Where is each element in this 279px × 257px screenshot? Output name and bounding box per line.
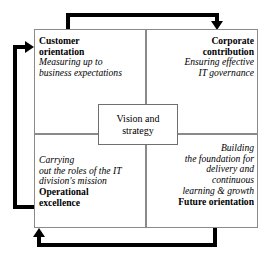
operational-excellence-title-line2: excellence — [39, 198, 143, 209]
bottom-arrow-horizontal-segment — [37, 243, 217, 247]
bottom-arrow-left-stem — [37, 236, 41, 246]
quadrant-operational-excellence: Carrying out the roles of the IT divisio… — [39, 155, 143, 209]
left-arrow-vertical-segment — [13, 45, 17, 209]
left-arrowhead-right-icon — [25, 41, 34, 53]
customer-orientation-subtitle-line2: business expectations — [39, 68, 142, 79]
vision-and-strategy-text: Vision and strategy — [116, 113, 159, 137]
quadrant-corporate-contribution: Corporate contribution Ensuring effectiv… — [150, 36, 254, 79]
left-arrow-bottom-stem — [13, 205, 35, 209]
top-arrow-left-stem — [66, 13, 70, 30]
future-orientation-title-line1: Future orientation — [150, 197, 254, 208]
diagram-canvas: Customer orientation Measuring up to bus… — [0, 0, 279, 257]
bottom-arrowhead-up-icon — [33, 228, 45, 237]
quadrant-customer-orientation: Customer orientation Measuring up to bus… — [39, 36, 142, 79]
corporate-contribution-subtitle-line2: IT governance — [150, 68, 254, 79]
vision-and-strategy-line2: strategy — [116, 125, 159, 137]
quadrant-future-orientation: Building the foundation for delivery and… — [150, 143, 254, 207]
vision-and-strategy-line1: Vision and — [116, 113, 159, 125]
top-arrow-horizontal-segment — [66, 13, 219, 17]
bottom-arrow-right-stem — [213, 228, 217, 246]
vision-and-strategy-box: Vision and strategy — [98, 104, 178, 145]
